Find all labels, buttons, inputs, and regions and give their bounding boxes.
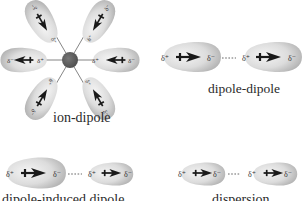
svg-text:δ⁻: δ⁻ — [53, 170, 61, 179]
dipole-did-induced: δ⁺ δ⁻ — [88, 162, 133, 185]
svg-text:δ⁺: δ⁺ — [6, 170, 14, 179]
petal-right-delta-plus: δ⁺ — [92, 57, 99, 65]
svg-text:δ⁺: δ⁺ — [88, 170, 96, 179]
svg-text:δ⁺: δ⁺ — [178, 170, 186, 179]
dipole-petal-top-left: δ⁺ δ⁻ — [20, 0, 66, 50]
dipole-idid-right: δ⁺ δ⁻ — [248, 162, 297, 185]
dipole-did-permanent: δ⁺ δ⁻ — [6, 157, 66, 188]
ion-dipole-label: ion-dipole — [53, 111, 111, 125]
dipole-idid-left: δ⁺ δ⁻ — [178, 162, 225, 185]
dipole-induced-dipole-panel: δ⁺ δ⁻ δ⁺ δ⁻ — [6, 157, 133, 188]
petal-left-delta-plus: δ⁺ — [37, 57, 44, 65]
svg-text:δ⁺: δ⁺ — [248, 170, 256, 179]
svg-text:δ⁺: δ⁺ — [242, 54, 250, 63]
svg-text:δ⁺: δ⁺ — [50, 36, 58, 44]
ion-sphere — [62, 52, 78, 68]
petal-left-delta-minus: δ⁻ — [7, 57, 14, 65]
dispersion-label: dispersion — [212, 193, 270, 201]
dipole-induced-dipole-label: dipole-induced dipole — [2, 193, 124, 201]
svg-text:δ⁻: δ⁻ — [213, 170, 221, 179]
svg-text:δ⁻: δ⁻ — [124, 170, 132, 179]
dipole-dd-right: δ⁺ δ⁻ — [242, 42, 302, 72]
ion-dipole-panel: δ⁺ δ⁻ δ⁺ δ⁻ δ⁻ δ⁺ δ⁺ δ⁻ δ⁺ δ⁻ — [0, 0, 139, 125]
petal-right-delta-minus: δ⁻ — [128, 57, 135, 65]
svg-text:δ⁻: δ⁻ — [284, 170, 292, 179]
dipole-petal-top-right: δ⁺ δ⁻ — [76, 0, 120, 48]
induced-dipole-induced-dipole-panel: δ⁺ δ⁻ δ⁺ δ⁻ — [178, 162, 297, 185]
intermolecular-forces-diagram: δ⁺ δ⁻ δ⁺ δ⁻ δ⁻ δ⁺ δ⁺ δ⁻ δ⁺ δ⁻ — [0, 0, 308, 201]
dipole-dipole-label: dipole-dipole — [208, 82, 280, 96]
dipole-dipole-panel: δ⁺ δ⁻ δ⁺ δ⁻ — [161, 42, 302, 72]
svg-text:δ⁻: δ⁻ — [207, 54, 215, 63]
svg-text:δ⁻: δ⁻ — [288, 54, 296, 63]
dipole-dd-left: δ⁺ δ⁻ — [161, 42, 221, 72]
svg-text:δ⁺: δ⁺ — [161, 54, 169, 63]
